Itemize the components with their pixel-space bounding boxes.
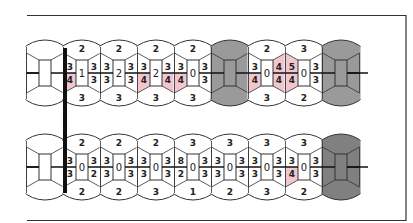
clue-left-bottom: 4 [141, 75, 147, 85]
clue-top: 2 [190, 44, 196, 54]
bead-chain-diagram: 2313433232333323234342303433230344432054… [0, 0, 413, 223]
clue-right-top: 3 [313, 156, 319, 166]
clue-right-bottom: 3 [91, 75, 97, 85]
clue-top: 2 [153, 138, 159, 148]
clue-right-bottom: 4 [276, 75, 282, 85]
clue-left-top: 3 [178, 62, 184, 72]
clue-bottom: 3 [153, 93, 159, 103]
clue-bottom: 3 [264, 187, 270, 197]
clue-center: 0 [190, 68, 196, 79]
clue-bottom: 2 [301, 93, 307, 103]
clue-right-bottom: 4 [165, 75, 171, 85]
clue-left-top: 3 [67, 156, 73, 166]
clue-top: 2 [79, 44, 85, 54]
clue-right-bottom: 3 [313, 169, 319, 179]
clue-center: 0 [190, 162, 196, 173]
clue-left-top: 3 [141, 62, 147, 72]
clue-right-top: 3 [202, 62, 208, 72]
clue-right-top: 3 [313, 62, 319, 72]
clue-left-bottom: 4 [252, 75, 258, 85]
clue-bottom: 3 [79, 93, 85, 103]
clue-right-bottom: 3 [165, 169, 171, 179]
clue-right-top: 3 [91, 62, 97, 72]
clue-left-top: 5 [289, 62, 295, 72]
clue-center: 1 [79, 68, 85, 79]
clue-left-bottom: 3 [252, 169, 258, 179]
clue-top: 2 [79, 138, 85, 148]
clue-top: 2 [153, 44, 159, 54]
clue-right-bottom: 3 [276, 169, 282, 179]
clue-right-top: 3 [202, 156, 208, 166]
clue-top: 3 [227, 138, 233, 148]
clue-bottom: 2 [301, 187, 307, 197]
clue-right-bottom: 3 [313, 75, 319, 85]
clue-top: 3 [264, 138, 270, 148]
clue-bottom: 2 [79, 187, 85, 197]
clue-left-top: 3 [252, 156, 258, 166]
clue-left-bottom: 4 [289, 169, 295, 179]
clue-left-top: 3 [215, 156, 221, 166]
clue-right-top: 3 [239, 156, 245, 166]
clue-left-bottom: 4 [289, 75, 295, 85]
clue-center: 0 [264, 162, 270, 173]
clue-bottom: 3 [153, 187, 159, 197]
clue-top: 2 [116, 138, 122, 148]
clue-bottom: 2 [227, 187, 233, 197]
clue-bottom: 3 [264, 93, 270, 103]
clue-right-bottom: 3 [202, 169, 208, 179]
clue-right-bottom: 2 [91, 169, 97, 179]
clue-left-top: 8 [178, 156, 184, 166]
clue-top: 3 [190, 138, 196, 148]
clue-left-bottom: 2 [178, 169, 184, 179]
clue-right-top: 4 [276, 62, 282, 72]
clue-center: 2 [116, 68, 122, 79]
clue-top: 2 [116, 44, 122, 54]
clue-right-bottom: 3 [202, 75, 208, 85]
clue-left-bottom: 3 [141, 169, 147, 179]
clue-bottom: 2 [116, 187, 122, 197]
clue-bottom: 3 [190, 93, 196, 103]
clue-center: 0 [264, 68, 270, 79]
clue-top: 3 [301, 44, 307, 54]
clue-left-bottom: 3 [104, 75, 110, 85]
clue-left-bottom: 3 [67, 169, 73, 179]
clue-right-top: 3 [165, 156, 171, 166]
clue-right-bottom: 3 [128, 169, 134, 179]
clue-right-bottom: 3 [128, 75, 134, 85]
clue-left-top: 3 [104, 156, 110, 166]
clue-center: 0 [153, 162, 159, 173]
clue-center: 0 [227, 162, 233, 173]
clue-center: 2 [153, 68, 159, 79]
clue-top: 3 [301, 138, 307, 148]
clue-left-top: 3 [104, 62, 110, 72]
clue-bottom: 3 [116, 93, 122, 103]
clue-right-top: 3 [128, 62, 134, 72]
clue-left-top: 3 [67, 62, 73, 72]
clue-left-bottom: 3 [215, 169, 221, 179]
clue-left-top: 3 [141, 156, 147, 166]
clue-left-bottom: 3 [104, 169, 110, 179]
clue-center: 0 [301, 68, 307, 79]
clue-right-top: 3 [91, 156, 97, 166]
clue-right-bottom: 3 [239, 169, 245, 179]
clue-bottom: 1 [190, 187, 196, 197]
clue-left-top: 3 [289, 156, 295, 166]
clue-left-bottom: 4 [178, 75, 184, 85]
clue-left-top: 3 [252, 62, 258, 72]
clue-right-top: 3 [276, 156, 282, 166]
clue-left-bottom: 4 [67, 75, 73, 85]
clue-center: 0 [301, 162, 307, 173]
clue-center: 0 [79, 162, 85, 173]
clue-right-top: 3 [165, 62, 171, 72]
clue-right-top: 3 [128, 156, 134, 166]
clue-center: 0 [116, 162, 122, 173]
clue-top: 2 [264, 44, 270, 54]
